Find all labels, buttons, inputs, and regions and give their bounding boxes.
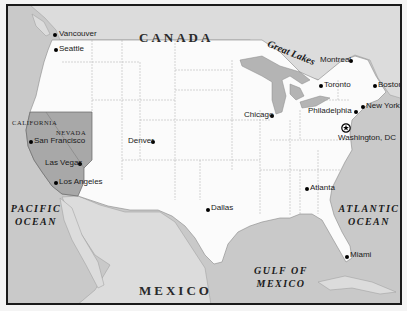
city-label: New York xyxy=(366,102,400,110)
gulf-line2: MEXICO xyxy=(248,278,314,291)
city-dot-icon xyxy=(373,84,377,88)
city-label: Miami xyxy=(350,251,371,259)
city-label: Philadelphia xyxy=(308,107,352,115)
water-label-gulf-of-mexico: GULF OF MEXICO xyxy=(248,265,314,290)
city-dot-icon xyxy=(361,105,365,109)
city-label: Denver xyxy=(128,137,154,145)
city-label: Seattle xyxy=(59,45,84,53)
city-label: San Francisco xyxy=(34,137,85,145)
state-label-nevada: NEVADA xyxy=(56,129,86,136)
gulf-line1: GULF OF xyxy=(248,265,314,278)
city-label: Toronto xyxy=(324,81,351,89)
city-dot-icon xyxy=(29,140,33,144)
city-label: Dallas xyxy=(211,204,233,212)
pacific-line1: PACIFIC xyxy=(8,203,64,216)
atlantic-line2: OCEAN xyxy=(334,216,402,229)
star-in-circle-icon xyxy=(341,123,351,133)
region-label-mexico: MEXICO xyxy=(139,284,212,297)
atlantic-line1: ATLANTIC xyxy=(334,203,402,216)
city-label: Montreal xyxy=(320,56,351,64)
city-dot-icon xyxy=(305,187,309,191)
city-dot-icon xyxy=(345,255,349,259)
city-label: Atlanta xyxy=(310,184,335,192)
map-frame: CANADA MEXICO Great Lakes PACIFIC OCEAN … xyxy=(6,4,402,305)
state-label-california: CALIFORNIA xyxy=(12,119,57,126)
city-dot-icon xyxy=(319,84,323,88)
water-label-atlantic-ocean: ATLANTIC OCEAN xyxy=(334,203,402,228)
region-label-canada: CANADA xyxy=(139,31,213,44)
city-label: Washington, DC xyxy=(338,134,396,142)
city-label: Boston xyxy=(378,81,402,89)
city-dot-icon xyxy=(54,181,58,185)
city-dot-icon xyxy=(53,33,57,37)
pacific-line2: OCEAN xyxy=(8,216,64,229)
city-label: Chicago xyxy=(244,111,273,119)
city-dot-icon xyxy=(54,48,58,52)
city-dot-icon xyxy=(206,208,210,212)
city-label: Los Angeles xyxy=(59,178,103,186)
water-label-pacific-ocean: PACIFIC OCEAN xyxy=(8,203,64,228)
city-label: Vancouver xyxy=(59,30,97,38)
city-dot-icon xyxy=(354,110,358,114)
city-label: Las Vegas xyxy=(45,159,82,167)
